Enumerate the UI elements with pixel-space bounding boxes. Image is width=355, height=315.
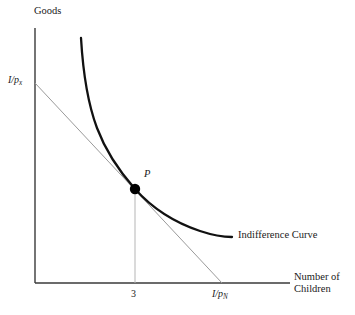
- tangency-point-label: P: [144, 168, 150, 180]
- budget-line-y-intercept-label: I/px: [8, 74, 22, 87]
- indifference-curve-annotation: Indifference Curve: [238, 229, 317, 241]
- x-intercept-subscript: N: [223, 293, 228, 301]
- y-intercept-subscript: x: [19, 79, 22, 87]
- x-axis-label: Number ofChildren: [294, 271, 352, 295]
- plot-canvas: [0, 0, 355, 315]
- tangency-point-marker: [130, 184, 140, 194]
- budget-line-x-intercept-label: I/pN: [212, 288, 228, 301]
- y-axis-label: Goods: [34, 5, 61, 17]
- y-intercept-base: I/p: [8, 74, 19, 85]
- x-axis-label-line2: Children: [294, 283, 331, 294]
- indifference-curve-figure: Goods Number ofChildren I/px I/pN 3 P In…: [0, 0, 355, 315]
- x-axis-label-line1: Number of: [294, 271, 340, 282]
- indifference-curve-path: [81, 38, 232, 237]
- x-intercept-base: I/p: [212, 288, 223, 299]
- x-axis-tick-label: 3: [131, 288, 136, 299]
